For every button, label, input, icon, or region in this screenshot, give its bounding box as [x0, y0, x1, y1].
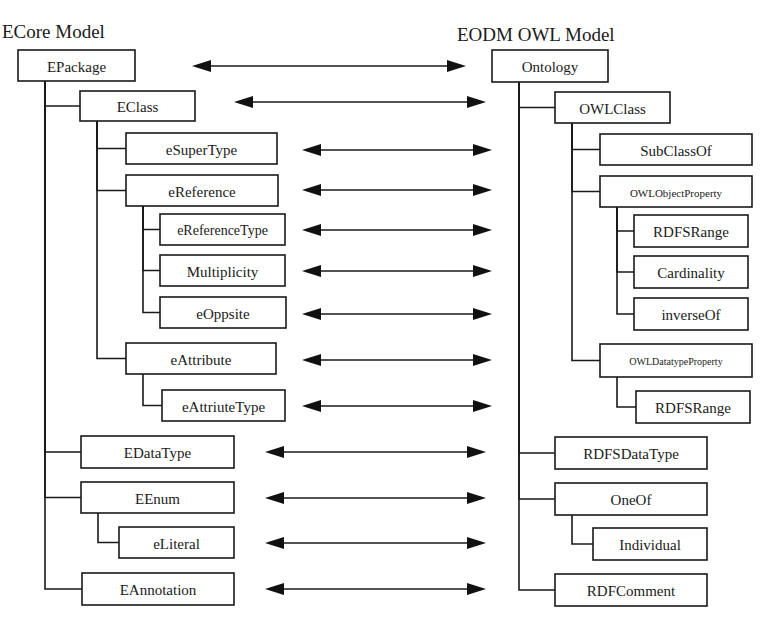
left-model-title: ECore Model	[2, 21, 105, 42]
arrowhead-left-icon	[265, 446, 284, 458]
node-eannotation: EAnnotation	[82, 573, 234, 605]
tree-connector	[143, 206, 160, 313]
arrowhead-right-icon	[473, 400, 492, 412]
arrowhead-right-icon	[467, 96, 486, 108]
ecore-to-owl-mapping-diagram: ECore Model EODM OWL Model EPackageEClas…	[0, 0, 767, 630]
node-eattribute: eAttribute	[126, 343, 276, 374]
arrowhead-left-icon	[302, 224, 321, 236]
node-label: eOppsite	[196, 306, 250, 322]
node-label: eAttriuteType	[182, 399, 265, 415]
node-label: eSuperType	[166, 142, 238, 158]
node-label: eReferenceType	[177, 223, 268, 238]
node-eclass: EClass	[80, 91, 195, 121]
arrowhead-right-icon	[473, 184, 492, 196]
arrowhead-right-icon	[447, 60, 466, 72]
node-rdfsrange1: RDFSRange	[634, 215, 748, 247]
node-label: OWLClass	[579, 101, 646, 117]
arrowhead-left-icon	[302, 308, 321, 320]
arrowhead-right-icon	[467, 583, 486, 595]
bidirectional-arrow-icon	[302, 265, 492, 277]
tree-connector	[519, 82, 555, 590]
node-label: Cardinality	[657, 265, 725, 281]
tree-connector	[617, 207, 634, 272]
node-rdfcomment: RDFComment	[555, 574, 707, 606]
node-label: EDataType	[124, 445, 192, 461]
tree-connector	[617, 377, 636, 407]
tree-connector	[45, 81, 81, 498]
node-rdfsdatatype: RDFSDataType	[555, 437, 707, 469]
bidirectional-arrow-icon	[265, 537, 486, 549]
node-label: eReference	[168, 184, 236, 200]
node-ereferencetype: eReferenceType	[160, 214, 285, 245]
bidirectional-arrow-icon	[265, 446, 486, 458]
arrowhead-left-icon	[302, 184, 321, 196]
node-rdfsrange2: RDFSRange	[636, 391, 750, 423]
tree-connector	[519, 82, 555, 499]
arrowhead-right-icon	[473, 308, 492, 320]
tree-connector	[97, 121, 126, 191]
tree-connector	[519, 82, 555, 108]
bidirectional-arrow-icon	[265, 583, 486, 595]
tree-connector	[572, 123, 600, 150]
tree-connector	[45, 81, 82, 589]
bidirectional-arrow-icon	[302, 224, 492, 236]
node-oneof: OneOf	[555, 483, 707, 515]
node-label: EAnnotation	[120, 582, 197, 598]
tree-connector	[97, 121, 126, 149]
node-eattriutetype: eAttriuteType	[162, 390, 285, 421]
node-label: RDFComment	[587, 583, 676, 599]
node-label: OWLObjectProperty	[630, 187, 723, 199]
arrowhead-left-icon	[302, 354, 321, 366]
node-eoppsite: eOppsite	[160, 297, 286, 328]
node-esupertype: eSuperType	[126, 133, 277, 164]
node-label: EPackage	[47, 59, 106, 75]
ecore-tree: EPackageEClasseSuperTypeeReferenceeRefer…	[18, 50, 286, 605]
bidirectional-arrow-icon	[234, 96, 486, 108]
right-model-title: EODM OWL Model	[457, 24, 615, 45]
arrowhead-left-icon	[302, 265, 321, 277]
arrowhead-right-icon	[473, 354, 492, 366]
arrowhead-left-icon	[234, 96, 253, 108]
bidirectional-arrow-icon	[302, 144, 492, 156]
bidirectional-arrow-icon	[265, 492, 486, 504]
node-label: eLiteral	[153, 536, 200, 552]
bidirectional-arrow-icon	[302, 354, 492, 366]
node-label: RDFSDataType	[583, 446, 679, 462]
node-label: EEnum	[135, 491, 180, 507]
node-label: OneOf	[611, 492, 652, 508]
arrowhead-right-icon	[467, 492, 486, 504]
node-edatatype: EDataType	[81, 436, 234, 468]
bidirectional-arrow-icon	[302, 400, 492, 412]
node-label: Multiplicity	[187, 264, 259, 280]
node-individual: Individual	[593, 528, 707, 560]
node-cardinality: Cardinality	[634, 256, 748, 288]
tree-connector	[143, 374, 162, 406]
node-label: OWLDatatypeProperty	[629, 356, 722, 367]
node-label: Individual	[619, 537, 681, 553]
arrowhead-right-icon	[473, 265, 492, 277]
tree-connector	[45, 81, 81, 452]
tree-connector	[572, 123, 600, 192]
node-multiplicity: Multiplicity	[160, 255, 285, 286]
node-epackage: EPackage	[18, 50, 135, 81]
arrowhead-left-icon	[302, 400, 321, 412]
arrowhead-left-icon	[265, 492, 284, 504]
bidirectional-arrow-icon	[302, 184, 492, 196]
node-label: inverseOf	[661, 307, 720, 323]
node-label: EClass	[117, 99, 159, 115]
tree-connector	[617, 207, 634, 314]
node-label: eAttribute	[171, 352, 232, 368]
node-owlobjectproperty: OWLObjectProperty	[600, 176, 752, 207]
node-label: RDFSRange	[653, 224, 729, 240]
node-label: SubClassOf	[640, 143, 712, 159]
node-inverseof: inverseOf	[634, 298, 748, 330]
arrowhead-left-icon	[302, 144, 321, 156]
node-eenum: EEnum	[81, 482, 234, 513]
node-owlclass: OWLClass	[555, 92, 670, 123]
node-label: Ontology	[522, 59, 579, 75]
tree-connector	[572, 123, 600, 361]
tree-connector	[519, 82, 555, 453]
tree-connector	[617, 207, 634, 231]
arrowhead-left-icon	[265, 583, 284, 595]
arrowhead-left-icon	[265, 537, 284, 549]
